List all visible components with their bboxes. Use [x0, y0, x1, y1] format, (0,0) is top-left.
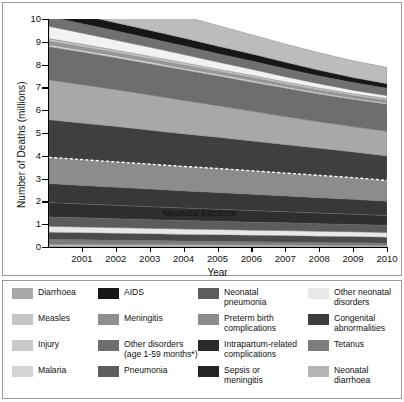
legend-label-line1: Preterm birth — [224, 313, 276, 323]
legend-label-line2: meningitis — [224, 375, 263, 385]
neonatal-fractions-annotation: Neonatal fractions — [163, 208, 236, 218]
legend-label-line2: pneumonia — [224, 297, 267, 307]
x-tick-mark-2009 — [353, 247, 354, 252]
y-tick-label-10: 10 — [7, 14, 41, 24]
legend-label-line2: abnormalities — [334, 323, 385, 333]
y-tick-mark-4 — [42, 156, 48, 157]
legend-label-line1: Intrapartum-related — [224, 339, 297, 349]
legend-label-line2: diarrhoea — [334, 375, 370, 385]
legend-swatch-neonatal — [198, 288, 219, 299]
legend-swatch-malaria — [12, 366, 33, 377]
legend-label-other-disorders: Other disorders(age 1-59 months*) — [124, 339, 198, 360]
legend-label-meningitis: Meningitis — [124, 313, 163, 323]
legend-label-pneumonia: Pneumonia — [124, 365, 167, 375]
legend-label-line1: Congenital — [334, 313, 385, 323]
legend-item-sepsis-or[interactable]: Sepsis ormeningitis — [198, 365, 308, 391]
legend-label-line1: Other disorders — [124, 339, 198, 349]
legend-label-congenital: Congenitalabnormalities — [334, 313, 385, 334]
legend-label-line1: Other neonatal — [334, 287, 391, 297]
y-tick-label-8: 8 — [7, 60, 41, 70]
x-tick-mark-2007 — [285, 247, 286, 252]
legend-swatch-preterm-birth — [198, 314, 219, 325]
legend-swatch-tetanus — [308, 340, 329, 351]
y-tick-mark-8 — [42, 65, 48, 66]
x-axis-title: Year — [48, 267, 387, 278]
y-axis-title: Number of Deaths (millions) — [16, 81, 27, 208]
x-tick-mark-2004 — [184, 247, 185, 252]
x-tick-mark-2006 — [251, 247, 252, 252]
legend-swatch-intrapartum-related — [198, 340, 219, 351]
x-tick-mark-2005 — [218, 247, 219, 252]
legend-swatch-meningitis — [98, 314, 119, 325]
x-tick-mark-2008 — [319, 247, 320, 252]
legend-item-intrapartum-related[interactable]: Intrapartum-relatedcomplications — [198, 339, 308, 365]
legend-label-measles: Measles — [38, 313, 70, 323]
legend-label-line2: (age 1-59 months*) — [124, 349, 198, 359]
legend-swatch-neonatal — [308, 366, 329, 377]
y-tick-mark-0 — [42, 247, 48, 248]
legend-label-neonatal: Neonataldiarrhoea — [334, 365, 370, 386]
legend-label-intrapartum-related: Intrapartum-relatedcomplications — [224, 339, 297, 360]
legend-label-sepsis-or: Sepsis ormeningitis — [224, 365, 263, 386]
legend-label-aids: AIDS — [124, 287, 144, 297]
legend-label-line1: Neonatal — [224, 287, 267, 297]
y-tick-mark-10 — [42, 19, 48, 20]
y-tick-mark-2 — [42, 201, 48, 202]
legend-label-line1: AIDS — [124, 287, 144, 297]
legend-label-line1: Pneumonia — [124, 365, 167, 375]
legend-label-preterm-birth: Preterm birthcomplications — [224, 313, 276, 334]
y-tick-label-1: 1 — [7, 219, 41, 229]
legend-item-tetanus[interactable]: Tetanus — [308, 339, 404, 365]
legend-label-line1: Measles — [38, 313, 70, 323]
legend-item-injury[interactable]: Injury — [12, 339, 98, 365]
legend-item-diarrhoea[interactable]: Diarrhoea — [12, 287, 98, 313]
legend-swatch-sepsis-or — [198, 366, 219, 377]
x-tick-mark-2003 — [150, 247, 151, 252]
legend-swatch-other-disorders — [98, 340, 119, 351]
chart-panel: 109876543210 Number of Deaths (millions)… — [2, 2, 402, 276]
legend-swatch-pneumonia — [98, 366, 119, 377]
x-tick-label-2010: 2010 — [367, 253, 404, 264]
legend-swatch-congenital — [308, 314, 329, 325]
legend-item-other-disorders[interactable]: Other disorders(age 1-59 months*) — [98, 339, 198, 365]
y-tick-label-0: 0 — [7, 242, 41, 252]
x-tick-mark-2010 — [387, 247, 388, 252]
legend-label-injury: Injury — [38, 339, 59, 349]
legend-label-tetanus: Tetanus — [334, 339, 364, 349]
legend-item-preterm-birth[interactable]: Preterm birthcomplications — [198, 313, 308, 339]
legend-item-aids[interactable]: AIDS — [98, 287, 198, 313]
legend-label-line2: disorders — [334, 297, 391, 307]
legend-label-line1: Meningitis — [124, 313, 163, 323]
legend-label-malaria: Malaria — [38, 365, 66, 375]
legend-item-other-neonatal[interactable]: Other neonataldisorders — [308, 287, 404, 313]
legend-label-line1: Injury — [38, 339, 59, 349]
legend: DiarrhoeaAIDSNeonatalpneumoniaOther neon… — [2, 280, 402, 399]
legend-label-diarrhoea: Diarrhoea — [38, 287, 76, 297]
legend-label-line2: complications — [224, 323, 276, 333]
legend-label-neonatal: Neonatalpneumonia — [224, 287, 267, 308]
y-tick-mark-5 — [42, 133, 48, 134]
legend-swatch-aids — [98, 288, 119, 299]
y-tick-mark-7 — [42, 87, 48, 88]
y-tick-mark-3 — [42, 179, 48, 180]
y-tick-mark-9 — [42, 42, 48, 43]
x-tick-mark-2001 — [82, 247, 83, 252]
legend-item-neonatal[interactable]: Neonataldiarrhoea — [308, 365, 404, 391]
legend-label-line1: Tetanus — [334, 339, 364, 349]
legend-swatch-injury — [12, 340, 33, 351]
x-tick-mark-2002 — [116, 247, 117, 252]
legend-item-meningitis[interactable]: Meningitis — [98, 313, 198, 339]
legend-item-malaria[interactable]: Malaria — [12, 365, 98, 391]
legend-label-line1: Sepsis or — [224, 365, 263, 375]
legend-label-line2: complications — [224, 349, 297, 359]
figure-root: 109876543210 Number of Deaths (millions)… — [0, 0, 404, 402]
legend-label-other-neonatal: Other neonataldisorders — [334, 287, 391, 308]
legend-swatch-diarrhoea — [12, 288, 33, 299]
legend-swatch-other-neonatal — [308, 288, 329, 299]
y-tick-label-9: 9 — [7, 37, 41, 47]
legend-item-pneumonia[interactable]: Pneumonia — [98, 365, 198, 391]
legend-item-measles[interactable]: Measles — [12, 313, 98, 339]
legend-item-neonatal[interactable]: Neonatalpneumonia — [198, 287, 308, 313]
legend-item-congenital[interactable]: Congenitalabnormalities — [308, 313, 404, 339]
legend-swatch-measles — [12, 314, 33, 325]
